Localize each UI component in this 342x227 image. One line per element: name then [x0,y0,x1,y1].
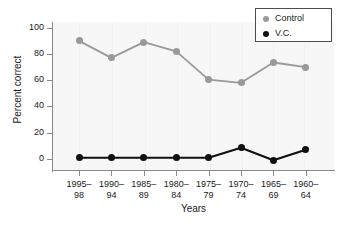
series-line-vc [79,148,306,160]
legend-marker-control-icon [263,16,269,22]
chart-figure: 100806040200 1995–981990–941985–891980–8… [0,0,342,227]
series-line-control [79,41,306,83]
legend-item-vc[interactable]: V.C. [263,27,331,40]
legend-label-vc: V.C. [275,29,292,38]
legend-label-control: Control [275,14,304,23]
legend-item-control[interactable]: Control [263,12,331,25]
legend-marker-vc-icon [263,31,269,37]
legend: Control V.C. [255,8,332,42]
